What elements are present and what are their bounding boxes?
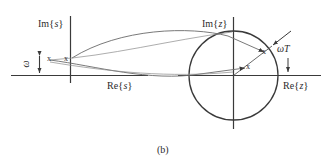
mapping-curve-lower-tail: [50, 62, 233, 74]
pole-marker-2: x: [64, 55, 68, 63]
imag-text: Im: [38, 18, 49, 29]
z-plane-real-axis-label: Re{z}: [283, 80, 309, 91]
omega-symbol: ω: [20, 60, 31, 67]
z-plane-imag-axis-label: Im{z}: [202, 18, 228, 29]
brace-close: }: [127, 79, 132, 91]
omega-spacing-label: ω: [21, 60, 31, 67]
pole-marker-1: x: [47, 55, 51, 63]
radial-angle-line: [234, 46, 273, 76]
omega-symbol: ω: [277, 43, 284, 54]
real-text: Re: [283, 80, 294, 91]
mapped-pole-marker-1: x: [262, 48, 266, 56]
imag-text: Im: [202, 18, 213, 29]
mapped-pole-marker-2: x: [246, 63, 250, 71]
brace-close: }: [303, 79, 308, 91]
brace-close: }: [58, 17, 63, 29]
figure-caption: (b): [157, 145, 169, 155]
omega-t-label: ωT: [277, 44, 290, 54]
t-symbol: T: [284, 43, 290, 54]
brace-close: }: [222, 17, 227, 29]
s-plane-real-axis-label: Re{s}: [107, 80, 133, 91]
mapping-curve-upper-tail: [50, 32, 232, 60]
figure-s-plane-to-z-plane-mapping: Im{s} Re{s} ω x x Im{z} Re{z} ωT x x (b): [0, 0, 327, 166]
real-text: Re: [107, 80, 118, 91]
s-plane-imag-axis-label: Im{s}: [38, 18, 64, 29]
